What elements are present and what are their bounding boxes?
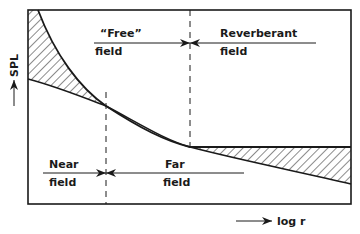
free-field-label-2: field (95, 45, 122, 58)
spl-axis-label: SPL (8, 54, 21, 77)
far-field-label-2: field (163, 176, 190, 189)
near-field-label-2: field (49, 176, 76, 189)
log-r-axis-label: log r (277, 215, 306, 228)
total-spl-curve (38, 10, 351, 147)
near-field-label-1: Near (49, 158, 79, 171)
far-field-label-1: Far (165, 158, 185, 171)
reverberant-field-label-1: Reverberant (220, 27, 297, 40)
reverberant-field-label-2: field (220, 45, 247, 58)
free-field-label-1: “Free” (100, 27, 142, 40)
sound-field-diagram: “Free” field Reverberant field Near fiel… (0, 0, 360, 234)
plot-frame (28, 10, 351, 204)
